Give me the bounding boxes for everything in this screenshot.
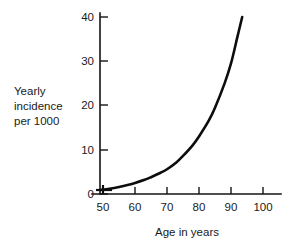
x-tick-label-100: 100	[253, 201, 272, 213]
y-tick-label-20: 20	[81, 99, 94, 111]
y-tick-label-30: 30	[81, 55, 94, 67]
x-axis-title: Age in years	[155, 226, 219, 238]
x-tick-label-80: 80	[193, 201, 206, 213]
chart-canvas: 40 30 20 10 0 50 60 70 80 90 100 Yearly …	[0, 0, 298, 246]
y-tick-label-10: 10	[81, 144, 94, 156]
y-axis-title-line-3: per 1000	[14, 115, 59, 127]
x-tick-label-90: 90	[225, 201, 238, 213]
x-tick-label-60: 60	[129, 201, 142, 213]
y-axis-title-line-2: incidence	[14, 100, 63, 112]
y-tick-label-40: 40	[81, 11, 94, 23]
x-tick-label-50: 50	[97, 201, 110, 213]
chart-figure: 40 30 20 10 0 50 60 70 80 90 100 Yearly …	[0, 0, 298, 246]
x-tick-label-70: 70	[161, 201, 174, 213]
y-axis-title-line-1: Yearly	[14, 85, 46, 97]
y-tick-label-0: 0	[88, 188, 94, 200]
